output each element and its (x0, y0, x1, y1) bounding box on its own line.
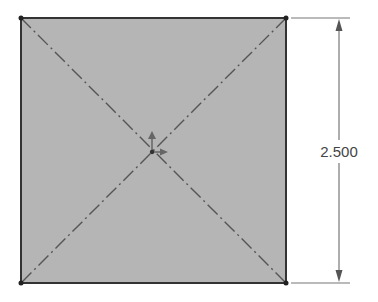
dimension-arrow-top-icon (336, 19, 343, 31)
dimension-arrow-bottom-icon (336, 270, 343, 282)
vertex-top-right[interactable] (284, 16, 289, 21)
sketch-canvas[interactable]: 2.500 (0, 0, 378, 302)
vertex-top-left[interactable] (19, 16, 24, 21)
vertex-bottom-left[interactable] (19, 281, 24, 286)
dimension-value[interactable]: 2.500 (320, 143, 358, 160)
vertical-dimension[interactable]: 2.500 (291, 18, 358, 283)
vertex-bottom-right[interactable] (284, 281, 289, 286)
